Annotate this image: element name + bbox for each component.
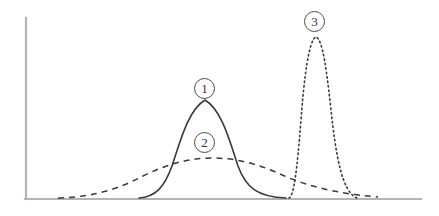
distribution-comparison-figure: 1 2 3 (0, 0, 439, 216)
curve-3-dotted (289, 37, 357, 198)
curve-label-2-text: 2 (201, 135, 208, 150)
curve-label-2: 2 (194, 132, 215, 153)
curve-2-dashed (58, 158, 378, 198)
curve-label-3: 3 (304, 11, 325, 32)
curve-label-1: 1 (194, 78, 215, 99)
curve-label-3-text: 3 (311, 14, 318, 29)
plot-canvas (0, 0, 439, 216)
curve-label-1-text: 1 (201, 81, 208, 96)
